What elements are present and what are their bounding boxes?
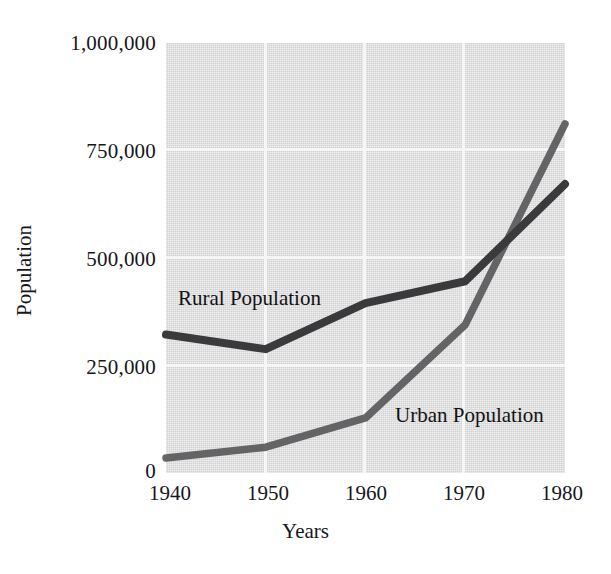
y-axis-title: Population [12, 181, 37, 361]
x-tick-1970: 1970 [443, 481, 485, 506]
x-tick-1940: 1940 [149, 481, 191, 506]
x-tick-1980: 1980 [541, 481, 583, 506]
series-label-rural-population: Rural Population [178, 286, 321, 311]
y-tick-1000000: 1,000,000 [70, 31, 156, 56]
series-line-rural-population [166, 184, 565, 349]
x-tick-1950: 1950 [247, 481, 289, 506]
x-axis-title: Years [0, 519, 611, 544]
x-tick-1960: 1960 [345, 481, 387, 506]
y-tick-750000: 750,000 [86, 139, 156, 164]
series-label-urban-population: Urban Population [395, 403, 544, 428]
y-tick-500000: 500,000 [86, 247, 156, 272]
population-line-chart: Rural Population Urban Population 1,000,… [0, 0, 611, 574]
y-tick-250000: 250,000 [86, 355, 156, 380]
